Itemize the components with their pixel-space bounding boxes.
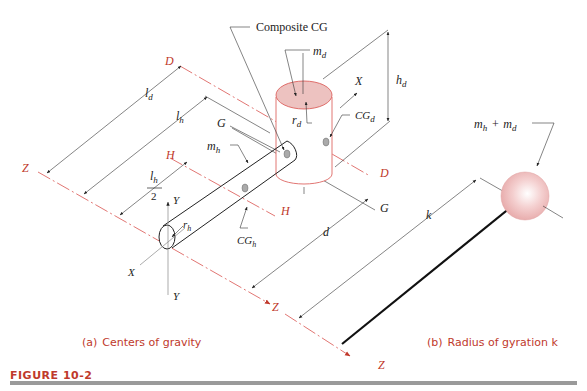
label-hd: hd [396,73,407,89]
label-cg-d: CGd [355,109,375,124]
leader-cg-h [240,207,248,228]
label-axis-x-left: X [127,266,136,278]
point-mass-sphere [501,172,549,220]
label-ld: ld [145,86,153,102]
axis-line-d [180,66,370,176]
label-axis-d-right: D [379,166,389,180]
label-axis-y-bottom: Y [173,290,181,302]
label-d: d [323,225,330,239]
dim-line-d [252,199,368,288]
label-lh-half: lh 2 [147,169,162,202]
svg-text:lh: lh [150,169,158,185]
label-composite-cg: Composite CG [256,20,328,34]
label-axis-g-left: G [217,116,226,130]
label-cg-h: CGh [237,234,256,249]
ext-line-hd-bottom [335,121,390,167]
ext-g [230,126,280,152]
label-axis-g-right: G [380,201,389,215]
figure-divider-bar [10,381,577,385]
ext-line-sphere [543,206,563,218]
axis-x-top [340,93,357,108]
caption-a: (a)Centers of gravity [82,336,202,349]
cg-handle-dot [242,184,248,192]
ext-line-lh [205,96,270,133]
gyration-rod [342,207,511,344]
axis-line-h [170,158,275,216]
label-mh: mh [207,139,221,155]
label-mass-sum: mh+md [474,117,517,133]
label-axis-z-bottom: Z [272,300,279,314]
label-axis-d-top: D [164,54,174,68]
label-lh: lh [176,109,184,125]
dim-line-lh-half [120,162,187,215]
leader-mass-sum [532,123,554,166]
label-axis-y-top: Y [173,194,181,206]
label-rh: rh [183,218,191,233]
leader-cg-d [330,115,350,137]
svg-text:2: 2 [151,190,157,202]
leader-mh [230,145,248,163]
figure-diagram: Composite CG md hd X rd CGd D D ld lh G … [0,0,587,391]
label-axis-x-top: X [354,74,363,88]
label-axis-h-left: H [165,148,176,162]
label-axis-h-bottom: H [280,204,291,218]
label-axis-z-b: Z [378,358,385,372]
label-md: md [313,44,327,60]
caption-b: (b)Radius of gyration k [427,336,558,349]
axis-line-z2 [285,314,350,356]
cg-composite-dot [284,150,290,158]
label-axis-z-left: Z [22,161,29,175]
ext-line-hd-top [323,30,388,79]
dim-line-lh [84,97,207,194]
label-k: k [426,208,432,222]
disk-cylinder [276,81,332,194]
dim-line-ld [47,66,181,173]
cg-disk-dot [323,138,329,146]
